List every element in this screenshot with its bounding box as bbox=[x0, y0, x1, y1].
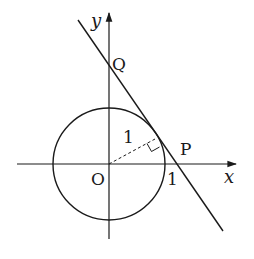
radius-label: 1 bbox=[123, 129, 134, 146]
y-axis-label: y bbox=[91, 12, 101, 30]
right-angle-mark bbox=[147, 144, 160, 152]
x-axis-label: x bbox=[224, 168, 234, 186]
diagram-canvas: y x O Q P 1 1 bbox=[0, 0, 254, 259]
origin-label: O bbox=[91, 171, 105, 188]
point-p-label: P bbox=[180, 141, 191, 158]
x-intercept-label: 1 bbox=[167, 171, 178, 188]
tangent-line bbox=[78, 20, 223, 231]
point-q-label: Q bbox=[112, 56, 126, 73]
